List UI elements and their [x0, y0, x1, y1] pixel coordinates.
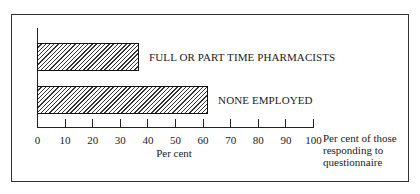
bar-label-none-employed: NONE EMPLOYED — [218, 94, 313, 106]
x-tick-label: 0 — [35, 134, 41, 146]
x-tick-mark — [120, 119, 121, 127]
x-tick-mark — [175, 119, 176, 127]
x-tick-label: 100 — [305, 134, 322, 146]
x-tick-mark — [230, 119, 231, 127]
x-tick-mark — [258, 119, 259, 127]
x-tick-label: 40 — [142, 134, 153, 146]
x-tick-mark — [285, 119, 286, 127]
x-tick-label: 30 — [115, 134, 126, 146]
x-tick-mark — [147, 119, 148, 127]
annotation-line-3: questionnaire — [323, 156, 413, 168]
annotation-line-2: responding to — [323, 144, 413, 156]
x-tick-label: 90 — [280, 134, 291, 146]
x-tick-mark — [313, 119, 314, 127]
x-tick-label: 10 — [60, 134, 71, 146]
x-tick-label: 60 — [198, 134, 209, 146]
x-tick-label: 80 — [253, 134, 264, 146]
x-tick-label: 70 — [225, 134, 236, 146]
x-tick-mark — [203, 119, 204, 127]
x-tick-mark — [65, 119, 66, 127]
annotation-line-1: Per cent of those — [323, 132, 413, 144]
x-axis-title: Per cent — [156, 147, 192, 159]
bar-full-or-part-time-pharmacists — [37, 43, 139, 71]
x-axis-line — [37, 127, 314, 128]
x-tick-label: 20 — [87, 134, 98, 146]
bar-none-employed — [37, 86, 208, 114]
x-tick-label: 50 — [170, 134, 181, 146]
x-tick-mark — [92, 119, 93, 127]
axis-annotation: Per cent of those responding to question… — [323, 132, 413, 168]
bar-label-full-or-part-time: FULL OR PART TIME PHARMACISTS — [149, 51, 335, 63]
